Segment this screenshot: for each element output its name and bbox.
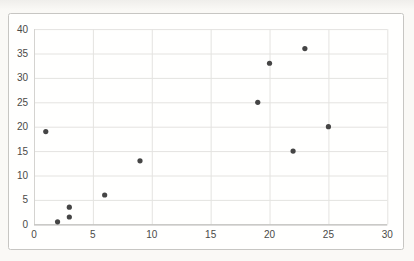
data-point [267,61,272,66]
data-point [67,205,72,210]
data-point [43,129,48,134]
scatter-chart: 0510152025300510152025303540 [0,0,414,261]
x-tick-label: 20 [264,229,276,240]
y-tick-label: 20 [17,121,29,132]
x-tick-label: 5 [90,229,96,240]
x-tick-label: 25 [323,229,335,240]
scanned-chart-page: 0510152025300510152025303540 [0,0,414,261]
data-point [67,214,72,219]
y-tick-label: 10 [17,170,29,181]
y-tick-label: 5 [22,194,28,205]
x-tick-label: 15 [205,229,217,240]
data-point [255,100,260,105]
data-point [290,149,295,154]
data-point [326,124,331,129]
x-tick-label: 0 [31,229,37,240]
y-tick-label: 35 [17,48,29,59]
y-tick-label: 15 [17,146,29,157]
y-tick-label: 40 [17,24,29,35]
x-tick-label: 30 [382,229,394,240]
y-tick-label: 25 [17,97,29,108]
y-tick-label: 0 [22,219,28,230]
chart-border [9,14,404,250]
y-tick-label: 30 [17,72,29,83]
data-point [137,158,142,163]
data-point [102,192,107,197]
x-tick-label: 10 [146,229,158,240]
data-point [55,219,60,224]
data-point [302,46,307,51]
